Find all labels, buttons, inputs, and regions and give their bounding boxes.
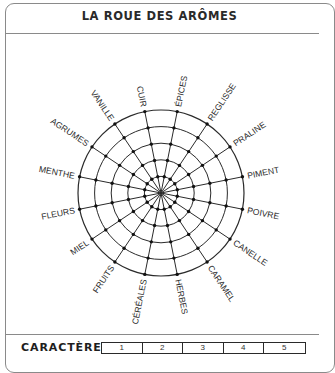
wheel-point[interactable] <box>176 188 179 191</box>
wheel-point[interactable] <box>175 110 178 113</box>
wheel-point[interactable] <box>143 195 146 198</box>
wheel-point[interactable] <box>146 256 149 259</box>
wheel-point[interactable] <box>163 208 166 211</box>
wheel-point[interactable] <box>172 126 175 129</box>
wheel-point[interactable] <box>110 201 113 204</box>
wheel-point[interactable] <box>132 233 135 236</box>
wheel-point[interactable] <box>141 164 144 167</box>
wheel-point[interactable] <box>113 122 116 125</box>
wheel-label: MIEL <box>68 238 90 258</box>
rating-option-5[interactable]: 5 <box>264 343 305 353</box>
wheel-point[interactable] <box>132 173 135 176</box>
wheel-point[interactable] <box>187 173 190 176</box>
wheel-point[interactable] <box>173 182 176 185</box>
wheel-point[interactable] <box>113 260 116 263</box>
footer-divider <box>5 334 319 335</box>
wheel-point[interactable] <box>205 122 208 125</box>
character-rating-scale[interactable]: 12345 <box>101 342 306 354</box>
wheel-point[interactable] <box>143 110 146 113</box>
wheel-point[interactable] <box>132 210 135 213</box>
wheel-point[interactable] <box>169 177 172 180</box>
wheel-point[interactable] <box>145 182 148 185</box>
rating-option-2[interactable]: 2 <box>143 343 184 353</box>
wheel-label: CANELLE <box>231 238 269 268</box>
wheel-point[interactable] <box>90 237 93 240</box>
wheel-point[interactable] <box>173 201 176 204</box>
wheel-point[interactable] <box>187 210 190 213</box>
wheel-point[interactable] <box>169 240 172 243</box>
wheel-point[interactable] <box>127 185 130 188</box>
wheel-point[interactable] <box>150 205 153 208</box>
wheel-point[interactable] <box>163 175 166 178</box>
character-label: CARACTÈRE <box>21 341 102 354</box>
wheel-point[interactable] <box>228 145 231 148</box>
wheel-grid <box>78 110 244 276</box>
wheel-point[interactable] <box>228 237 231 240</box>
wheel-point[interactable] <box>156 175 159 178</box>
wheel-point[interactable] <box>143 188 146 191</box>
wheel-point[interactable] <box>178 219 181 222</box>
rating-option-3[interactable]: 3 <box>183 343 224 353</box>
wheel-point[interactable] <box>104 154 107 157</box>
wheel-label: VANILLE <box>89 88 117 123</box>
wheel-label: PRALINE <box>231 119 267 148</box>
wheel-point[interactable] <box>132 150 135 153</box>
wheel-point[interactable] <box>196 247 199 250</box>
wheel-point[interactable] <box>94 204 97 207</box>
wheel-label: FLEURS <box>40 205 75 221</box>
wheel-point[interactable] <box>104 228 107 231</box>
wheel-point[interactable] <box>224 178 227 181</box>
wheel-point[interactable] <box>110 182 113 185</box>
wheel-point[interactable] <box>187 233 190 236</box>
wheel-point[interactable] <box>201 219 204 222</box>
wheel-point[interactable] <box>215 154 218 157</box>
wheel-label: ÉPICES <box>173 75 189 108</box>
wheel-label: CARAMEL <box>206 263 238 303</box>
wheel-point[interactable] <box>175 273 178 276</box>
wheel-point[interactable] <box>169 205 172 208</box>
wheel-point[interactable] <box>208 182 211 185</box>
wheel-point[interactable] <box>78 207 81 210</box>
wheel-point[interactable] <box>153 224 156 227</box>
wheel-point[interactable] <box>169 142 172 145</box>
wheel-point[interactable] <box>215 228 218 231</box>
wheel-point[interactable] <box>208 201 211 204</box>
wheel-point[interactable] <box>146 126 149 129</box>
wheel-point[interactable] <box>94 178 97 181</box>
wheel-point[interactable] <box>166 224 169 227</box>
wheel-point[interactable] <box>78 175 81 178</box>
wheel-point[interactable] <box>201 164 204 167</box>
wheel-point[interactable] <box>156 208 159 211</box>
wheel-point[interactable] <box>153 159 156 162</box>
wheel-point[interactable] <box>150 142 153 145</box>
wheel-label: CUIR <box>135 85 149 108</box>
rating-option-1[interactable]: 1 <box>102 343 143 353</box>
wheel-label: MENTHE <box>38 164 76 181</box>
wheel-point[interactable] <box>192 198 195 201</box>
wheel-point[interactable] <box>192 185 195 188</box>
wheel-point[interactable] <box>178 164 181 167</box>
wheel-point[interactable] <box>90 145 93 148</box>
wheel-point[interactable] <box>224 204 227 207</box>
wheel-point[interactable] <box>141 219 144 222</box>
rating-option-4[interactable]: 4 <box>224 343 265 353</box>
wheel-point[interactable] <box>241 207 244 210</box>
wheel-point[interactable] <box>196 136 199 139</box>
wheel-label: CÉRÉALES <box>130 278 149 325</box>
wheel-point[interactable] <box>143 273 146 276</box>
wheel-point[interactable] <box>205 260 208 263</box>
wheel-point[interactable] <box>172 256 175 259</box>
wheel-point[interactable] <box>122 247 125 250</box>
wheel-point[interactable] <box>176 195 179 198</box>
wheel-point[interactable] <box>187 150 190 153</box>
wheel-point[interactable] <box>150 177 153 180</box>
wheel-point[interactable] <box>118 219 121 222</box>
wheel-label: FRUITS <box>91 263 117 295</box>
wheel-point[interactable] <box>150 240 153 243</box>
wheel-point[interactable] <box>241 175 244 178</box>
wheel-point[interactable] <box>166 159 169 162</box>
wheel-point[interactable] <box>127 198 130 201</box>
wheel-point[interactable] <box>145 201 148 204</box>
wheel-point[interactable] <box>118 164 121 167</box>
wheel-point[interactable] <box>122 136 125 139</box>
